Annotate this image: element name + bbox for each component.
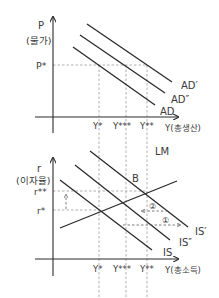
x-tick-y-triple-star: Y*** — [112, 121, 131, 131]
x-tick-y-double-star-bottom: Y** — [139, 264, 154, 274]
islm-chart: r (이자율) r** r* LM B ② ① IS′ IS″ IS Y* Y*… — [16, 146, 207, 276]
ad-islm-diagram: P (물가) P* Y* Y*** Y** Y(총생산) AD′ AD″ AD … — [0, 0, 219, 298]
p-star-label: P* — [36, 60, 47, 71]
x-tick-y-triple-star-bottom: Y*** — [112, 264, 131, 274]
arrow-2-label: ② — [149, 202, 156, 211]
r-axis-sublabel: (이자율) — [16, 175, 50, 186]
p-axis-sublabel: (물가) — [26, 35, 51, 46]
ad-label: AD — [160, 106, 175, 117]
r-double-star-label: r** — [34, 187, 47, 197]
p-axis-label: P — [38, 20, 44, 31]
ad-double-prime-label: AD″ — [171, 94, 190, 105]
is-prime-label: IS′ — [195, 226, 207, 237]
ad-curve — [73, 47, 155, 105]
point-b-label: B — [132, 173, 139, 184]
ad-chart: P (물가) P* Y* Y*** Y** Y(총생산) AD′ AD″ AD — [26, 17, 201, 298]
ad-double-prime-curve — [80, 35, 165, 93]
lm-label: LM — [155, 146, 169, 157]
r-axis-label: r — [37, 163, 42, 174]
is-label: IS — [163, 247, 172, 258]
x-tick-y-star: Y* — [92, 121, 102, 131]
x-axis-label-output: Y(총생산) — [164, 123, 201, 133]
x-axis-label-income: Y(총소득) — [164, 265, 201, 275]
ad-prime-curve — [87, 24, 172, 82]
r-star-label: r* — [37, 206, 46, 216]
x-tick-y-double-star: Y** — [139, 121, 154, 131]
x-tick-y-star-bottom: Y* — [92, 264, 102, 274]
ad-prime-label: AD′ — [181, 80, 199, 91]
is-double-prime-label: IS″ — [179, 237, 192, 248]
arrow-1-label: ① — [162, 216, 169, 225]
